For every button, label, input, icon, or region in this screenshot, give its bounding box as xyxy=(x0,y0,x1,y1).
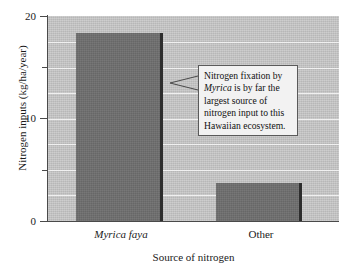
y-tick-5 xyxy=(42,170,48,171)
callout-line-3: largest source of xyxy=(204,95,267,106)
x-axis-title: Source of nitrogen xyxy=(48,251,339,263)
category-label-other: Other xyxy=(211,228,311,240)
category-label-myrica-faya: Myrica faya xyxy=(71,228,171,240)
y-tick-10 xyxy=(40,118,48,119)
callout-line-4: nitrogen input to this xyxy=(204,107,284,118)
y-tick-0 xyxy=(40,221,48,222)
x-axis-line xyxy=(47,221,339,222)
y-tick-label-0: 0 xyxy=(31,216,37,227)
callout-line-2-rest: is by far the xyxy=(232,82,280,93)
bar-other[interactable] xyxy=(216,183,302,221)
callout-line-5: Hawaiian ecosystem. xyxy=(204,120,286,131)
callout-italic-word: Myrica xyxy=(204,82,232,93)
callout-annotation: Nitrogen fixation by Myrica is by far th… xyxy=(198,65,298,136)
callout-line-1: Nitrogen fixation by xyxy=(204,70,282,81)
chart-figure: 20 10 0 Nitrogen inputs (kg/ha/year) Sou… xyxy=(0,0,348,269)
y-axis-title: Nitrogen inputs (kg/ha/year) xyxy=(16,13,28,203)
y-tick-15 xyxy=(42,67,48,68)
bar-myrica-faya[interactable] xyxy=(76,33,163,221)
y-tick-20 xyxy=(40,16,48,17)
